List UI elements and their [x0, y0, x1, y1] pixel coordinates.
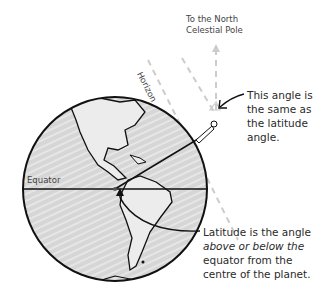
centre-point — [113, 187, 117, 191]
observer-icon — [196, 121, 217, 143]
latitude-note: Latitude is the angle above or below the… — [203, 225, 311, 281]
parallel-dashed-line — [182, 58, 214, 112]
north-pole-pointer — [210, 44, 220, 110]
equator-label: Equator — [27, 175, 60, 186]
angle-note-arrow — [219, 94, 244, 108]
north-pole-label: To the North Celestial Pole — [186, 14, 243, 36]
angle-note: This angle is the same as the latitude a… — [247, 88, 313, 144]
